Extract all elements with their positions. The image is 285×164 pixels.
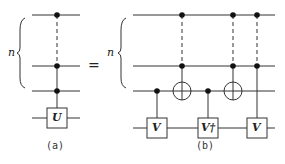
caption-a: (a) [46, 140, 64, 151]
caption-b: (b) [196, 140, 214, 151]
gate-v-dagger: V† [201, 121, 215, 134]
gate-v-1: V [152, 121, 161, 134]
register-label-b: n [107, 46, 114, 59]
gate-v-2: V [252, 121, 261, 134]
gate-u: U [52, 111, 62, 124]
register-label-a: n [8, 46, 15, 59]
equals-sign: = [88, 57, 100, 73]
circuit-diagram [0, 0, 285, 164]
